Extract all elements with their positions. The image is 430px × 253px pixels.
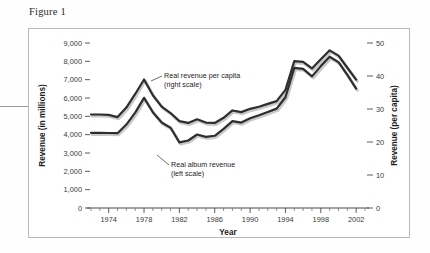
x-axis-tick-label: 2002 — [348, 215, 364, 224]
annotation-sublabel-upper: (right scale) — [164, 80, 202, 89]
y-axis-tick-label: 7,000 — [64, 75, 83, 84]
y2-axis-tick-label: 10 — [376, 171, 384, 180]
y-axis-tick-label: 4,000 — [64, 130, 83, 139]
y-axis-tick-label: 8,000 — [64, 57, 83, 66]
x-axis-tick-label: 1986 — [207, 215, 223, 224]
y2-axis-tick-label: 30 — [376, 105, 384, 114]
revenue-line-chart: 01,0002,0003,0004,0005,0006,0007,0008,00… — [29, 29, 409, 237]
annotation-leader-2 — [157, 155, 169, 165]
y-axis-tick-label: 9,000 — [64, 39, 83, 48]
x-axis-tick-label: 1974 — [100, 215, 116, 224]
x-axis-title: Year — [219, 228, 237, 237]
x-axis-tick-label: 1990 — [242, 215, 258, 224]
series-line — [91, 50, 356, 123]
y-axis-tick-label: 1,000 — [64, 185, 83, 194]
annotation-label-upper: Real revenue per capita — [164, 71, 240, 80]
y-axis-tick-label: 6,000 — [64, 94, 83, 103]
y-axis-tick-label: 0 — [78, 204, 82, 213]
y2-axis-title: Revenue (per capita) — [390, 85, 399, 166]
figure-title: Figure 1 — [29, 6, 66, 17]
annotation-label-lower: Real album revenue — [171, 160, 235, 169]
y2-axis-tick-label: 20 — [376, 138, 384, 147]
page-margin-rule — [0, 106, 30, 107]
y-axis-tick-label: 5,000 — [64, 112, 83, 121]
y2-axis-tick-label: 50 — [376, 39, 384, 48]
y2-axis-tick-label: 0 — [376, 204, 380, 213]
annotation-leader-1 — [151, 76, 162, 81]
x-axis-tick-label: 1994 — [277, 215, 293, 224]
x-axis-tick-label: 1978 — [136, 215, 152, 224]
x-axis-tick-label: 1982 — [171, 215, 187, 224]
chart-frame: 01,0002,0003,0004,0005,0006,0007,0008,00… — [28, 28, 410, 238]
series-1 — [91, 50, 357, 124]
annotation-sublabel-lower: (left scale) — [171, 169, 204, 178]
y2-axis-tick-label: 40 — [376, 72, 384, 81]
y-axis-title: Revenue (in millions) — [38, 84, 47, 167]
y-axis-tick-label: 3,000 — [64, 149, 83, 158]
figure-page: Figure 1 01,0002,0003,0004,0005,0006,000… — [0, 0, 430, 253]
x-axis-tick-label: 1998 — [313, 215, 329, 224]
y-axis-tick-label: 2,000 — [64, 167, 83, 176]
